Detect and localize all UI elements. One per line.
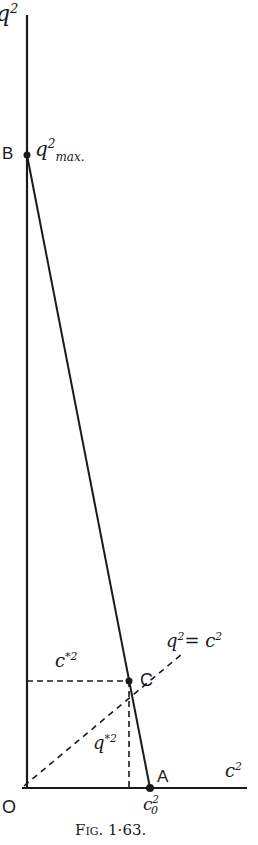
c-star-label: c*2 — [55, 652, 77, 670]
q-equals-c-label: q2= c2 — [166, 632, 222, 650]
x-axis-label: c2 — [225, 762, 242, 780]
q-max-label: q2max. — [35, 138, 85, 163]
point-a-label: A — [157, 768, 168, 785]
point-c-label: C — [140, 671, 153, 689]
q-star-label: q*2 — [93, 734, 117, 752]
origin-label: O — [2, 798, 16, 816]
figure-caption: Fig. 1·63. — [75, 823, 146, 838]
y-axis-label: q2 — [0, 2, 18, 25]
point-a — [146, 784, 154, 792]
diagram-canvas — [0, 0, 258, 845]
point-b — [24, 152, 31, 159]
point-c — [126, 678, 133, 685]
point-b-label: B — [2, 145, 13, 162]
c0-label: c20 — [143, 795, 158, 816]
line-b-to-a — [27, 155, 150, 788]
